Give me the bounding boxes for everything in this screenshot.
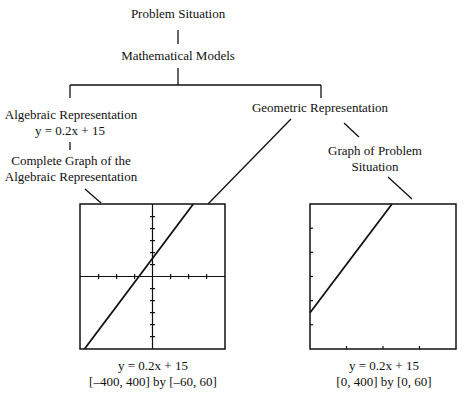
- left-graph: [80, 204, 225, 349]
- node-complete-graph-line2: Algebraic Representation: [0, 169, 142, 184]
- node-graph-problem-line1: Graph of Problem: [320, 143, 430, 158]
- node-algebraic-representation: Algebraic Representation: [0, 107, 142, 122]
- connector-geometric-to-left-box: [208, 119, 291, 204]
- left-graph-equation: y = 0.2x + 15: [82, 358, 224, 373]
- node-geometric-representation: Geometric Representation: [245, 100, 395, 115]
- node-graph-problem-line2: Situation: [320, 159, 430, 174]
- node-algebraic-equation: y = 0.2x + 15: [10, 123, 130, 138]
- node-mathematical-models: Mathematical Models: [108, 48, 248, 63]
- right-graph-window: [0, 400] by [0, 60]: [313, 374, 455, 389]
- node-problem-situation: Problem Situation: [118, 6, 238, 21]
- connector-complete-graph-to-box: [85, 189, 101, 203]
- connector-geometric-to-problem-graph: [344, 123, 359, 137]
- left-graph-window: [–400, 400] by [–60, 60]: [72, 374, 234, 389]
- right-graph-frame: [310, 204, 456, 349]
- right-graph: [310, 204, 456, 349]
- node-complete-graph-line1: Complete Graph of the: [0, 153, 142, 168]
- right-graph-equation: y = 0.2x + 15: [313, 358, 455, 373]
- right-graph-line: [310, 204, 392, 313]
- connector-problem-graph-to-box: [388, 177, 412, 199]
